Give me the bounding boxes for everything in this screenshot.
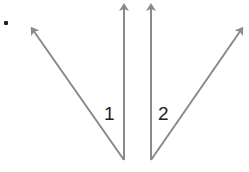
angle-1 bbox=[33, 7, 124, 160]
angle-2-ray-right-arrow bbox=[151, 30, 241, 160]
angle-1-ray-left-arrow bbox=[33, 30, 124, 160]
angle-2 bbox=[151, 7, 241, 160]
angle-2-label: 2 bbox=[158, 104, 169, 123]
angle-diagram bbox=[0, 0, 249, 172]
angle-1-label: 1 bbox=[104, 104, 115, 123]
